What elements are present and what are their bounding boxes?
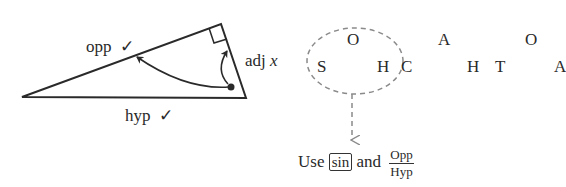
letter-S: S — [317, 58, 326, 75]
letter-O-2: O — [525, 31, 537, 48]
letter-H-2: H — [467, 58, 479, 75]
check-icon: ✓ — [159, 106, 173, 125]
arrow-to-opp — [137, 57, 229, 87]
arrow-to-adj — [221, 51, 228, 84]
label-opp: opp ✓ — [86, 38, 134, 55]
letter-A-2: A — [554, 58, 566, 75]
letter-T: T — [495, 58, 505, 75]
letter-C: C — [401, 58, 412, 75]
letter-O-1: O — [347, 31, 359, 48]
letter-A: A — [438, 31, 450, 48]
conclusion: Use sin and Opp Hyp — [298, 148, 414, 178]
label-hyp: hyp ✓ — [125, 107, 173, 124]
label-adj: adj x — [245, 52, 278, 69]
opp-over-hyp-fraction: Opp Hyp — [389, 148, 413, 178]
right-triangle — [22, 24, 246, 98]
letter-H-1: H — [377, 58, 389, 75]
check-icon: ✓ — [120, 37, 134, 56]
sin-box: sin — [329, 153, 353, 171]
